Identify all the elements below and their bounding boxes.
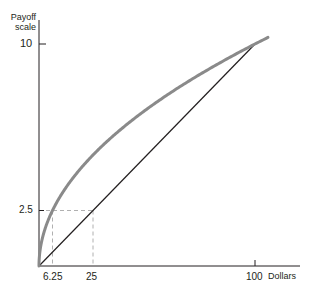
linear-payoff-line	[39, 44, 255, 266]
x-tick-label-25: 25	[86, 271, 97, 282]
x-tick-label-6-25: 6.25	[43, 271, 62, 282]
axes	[39, 20, 300, 266]
y-tick-label-2-5: 2.5	[19, 204, 33, 215]
x-tick-label-100: 100	[246, 271, 263, 282]
x-axis-label: Dollars	[268, 271, 296, 281]
y-axis-label: Payoff scale	[6, 12, 36, 32]
y-axis-label-line1: Payoff	[6, 12, 36, 22]
y-tick-label-10: 10	[20, 37, 32, 49]
chart-canvas	[0, 0, 318, 295]
y-axis-label-line2: scale	[6, 22, 36, 32]
utility-curve	[39, 37, 268, 266]
